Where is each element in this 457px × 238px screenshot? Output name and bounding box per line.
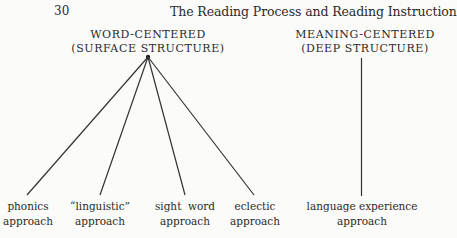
approach-linguistic: “linguistic” approach xyxy=(64,199,136,229)
approach-label: phonics xyxy=(0,199,56,214)
approach-label: approach xyxy=(0,214,56,229)
connector-sight-word xyxy=(148,57,185,195)
approach-phonics: phonics approach xyxy=(0,199,56,229)
approach-label: language experience xyxy=(302,199,422,214)
connector-eclectic xyxy=(148,57,254,195)
connector-phonics xyxy=(27,57,148,195)
approach-label: approach xyxy=(64,214,136,229)
connector-linguistic xyxy=(100,57,148,195)
approach-label: approach xyxy=(302,214,422,229)
approach-sight-word: sight word approach xyxy=(147,199,223,229)
approach-eclectic: eclectic approach xyxy=(227,199,283,229)
approach-label: approach xyxy=(147,214,223,229)
approach-label: approach xyxy=(227,214,283,229)
approach-language-experience: language experience approach xyxy=(302,199,422,229)
approach-label: sight word xyxy=(147,199,223,214)
approach-label: eclectic xyxy=(227,199,283,214)
approach-label: “linguistic” xyxy=(64,199,136,214)
